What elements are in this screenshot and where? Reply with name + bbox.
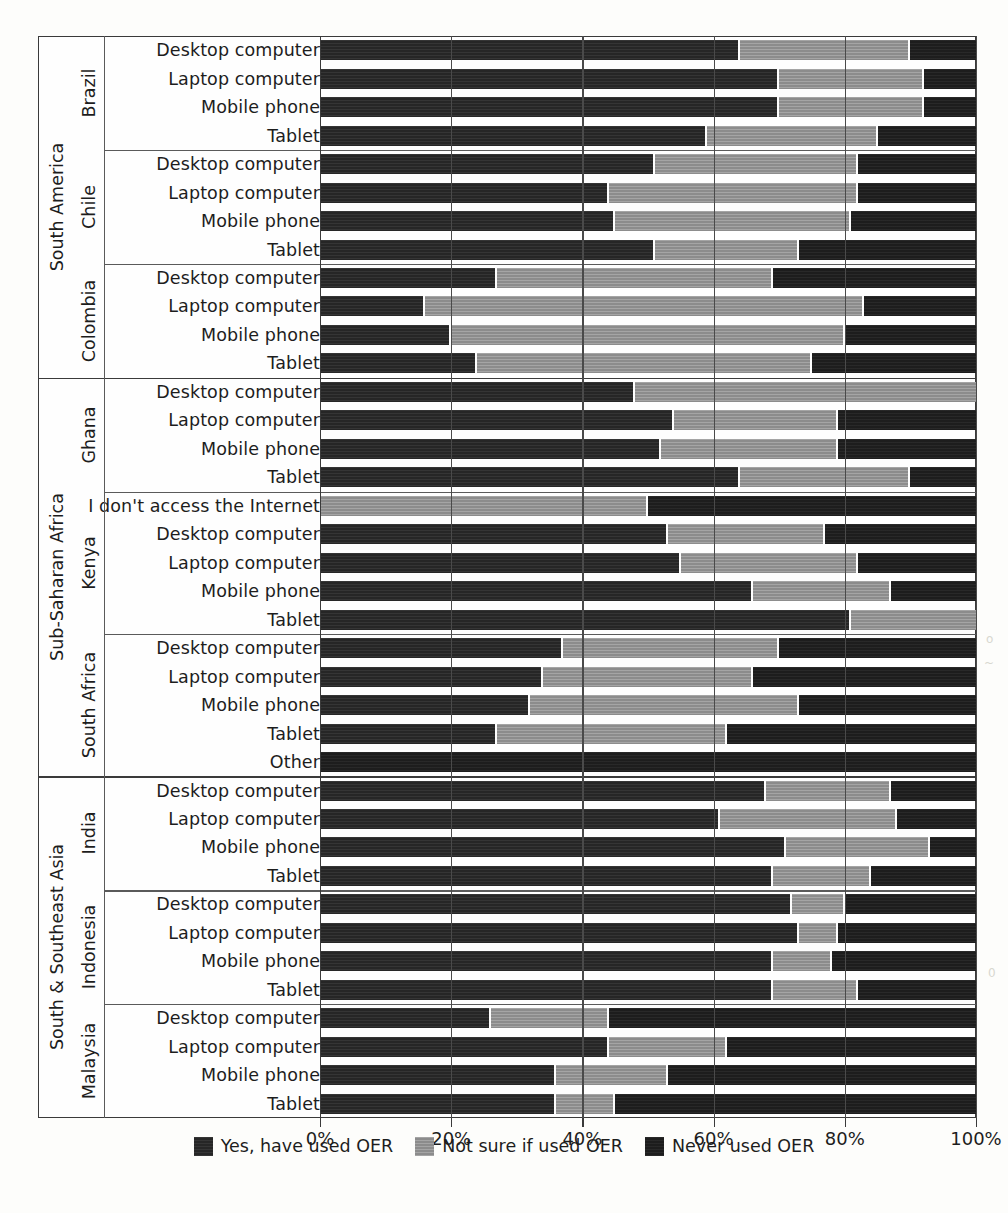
chart-legend: Yes, have used OERNot sure if used OERNe… xyxy=(0,1136,1008,1156)
gridline-20 xyxy=(451,36,452,1118)
legend-item-never[interactable]: Never used OER xyxy=(645,1136,814,1156)
legend-item-yes[interactable]: Yes, have used OER xyxy=(194,1136,394,1156)
country-label-kenya: Kenya xyxy=(74,492,104,634)
axis-gridlines-layer xyxy=(320,36,976,1118)
legend-item-notsure[interactable]: Not sure if used OER xyxy=(415,1136,623,1156)
legend-label: Not sure if used OER xyxy=(442,1136,623,1156)
country-label-chile: Chile xyxy=(74,150,104,264)
gridline-40 xyxy=(582,36,583,1118)
plot-frame: Desktop computerLaptop computerMobile ph… xyxy=(38,36,976,1118)
legend-swatch-notsure-icon xyxy=(415,1137,434,1156)
gridline-100 xyxy=(976,36,977,1118)
scan-artifact: o xyxy=(986,632,993,646)
country-label-indonesia: Indonesia xyxy=(74,890,104,1004)
scan-artifact: ~ xyxy=(984,656,994,670)
x-tick-80 xyxy=(845,1118,846,1127)
gridline-80 xyxy=(845,36,846,1118)
country-label-colombia: Colombia xyxy=(74,264,104,378)
legend-swatch-never-icon xyxy=(645,1137,664,1156)
x-tick-20 xyxy=(451,1118,452,1127)
oer-usage-stacked-bar-chart: Desktop computerLaptop computerMobile ph… xyxy=(0,0,1008,1213)
x-tick-60 xyxy=(714,1118,715,1127)
country-label-brazil: Brazil xyxy=(74,36,104,150)
region-label-south-america: South America xyxy=(42,36,72,378)
country-label-south-africa: South Africa xyxy=(74,634,104,776)
country-column-divider xyxy=(104,36,105,1118)
x-tick-0 xyxy=(320,1118,321,1127)
legend-swatch-yes-icon xyxy=(194,1137,213,1156)
region-label-south-southeast-asia: South & Southeast Asia xyxy=(42,776,72,1118)
category-axis-line xyxy=(320,36,321,1118)
x-tick-100 xyxy=(976,1118,977,1127)
legend-label: Yes, have used OER xyxy=(221,1136,394,1156)
x-tick-40 xyxy=(582,1118,583,1127)
country-label-ghana: Ghana xyxy=(74,378,104,492)
country-label-india: India xyxy=(74,776,104,890)
gridline-60 xyxy=(714,36,715,1118)
legend-label: Never used OER xyxy=(672,1136,814,1156)
scan-artifact: 0 xyxy=(988,966,996,980)
country-label-malaysia: Malaysia xyxy=(74,1004,104,1118)
region-label-sub-saharan-africa: Sub-Saharan Africa xyxy=(42,378,72,777)
